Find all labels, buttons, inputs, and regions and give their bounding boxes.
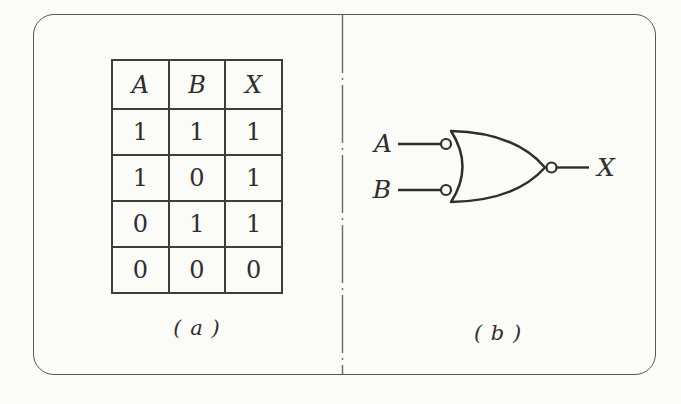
or-gate-body	[451, 131, 545, 202]
table-cell: 1	[225, 109, 282, 155]
table-cell: 1	[225, 201, 282, 247]
table-cell: 1	[169, 109, 226, 155]
gate-drawing-layer	[0, 0, 681, 404]
output-label-x: X	[597, 155, 615, 180]
output-bubble	[547, 163, 557, 173]
table-cell: 1	[225, 155, 282, 201]
table-cell: 0	[169, 155, 226, 201]
input-bubble-a	[441, 139, 451, 149]
table-cell: 1	[112, 109, 169, 155]
table-cell: 0	[225, 247, 282, 293]
figure-canvas: A B X 1 1 1 1 0 1 0 1 1 0 0 0	[0, 0, 681, 404]
panel-a-caption: ( a )	[173, 318, 220, 339]
table-cell: 1	[169, 201, 226, 247]
truth-table-header-a: A	[112, 60, 169, 109]
input-bubble-b	[441, 185, 451, 195]
truth-table-row: 1 1 1	[112, 109, 282, 155]
table-cell: 0	[112, 201, 169, 247]
table-cell: 0	[169, 247, 226, 293]
table-cell: 1	[112, 155, 169, 201]
truth-table: A B X 1 1 1 1 0 1 0 1 1 0 0 0	[111, 59, 283, 294]
truth-table-header-x: X	[225, 60, 282, 109]
truth-table-header-row: A B X	[112, 60, 282, 109]
table-cell: 0	[112, 247, 169, 293]
truth-table-row: 0 1 1	[112, 201, 282, 247]
truth-table-row: 1 0 1	[112, 155, 282, 201]
truth-table-header-b: B	[169, 60, 226, 109]
panel-b-caption: ( b )	[474, 323, 522, 344]
input-label-b: B	[373, 177, 391, 202]
input-label-a: A	[374, 131, 392, 156]
truth-table-row: 0 0 0	[112, 247, 282, 293]
